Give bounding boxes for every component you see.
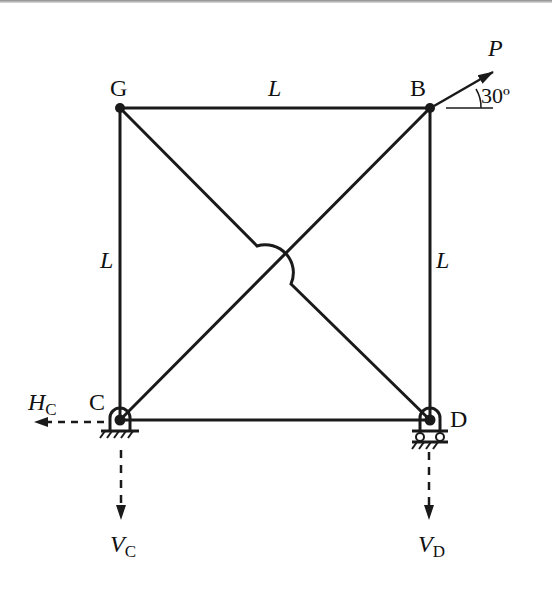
node-label-C: C xyxy=(89,389,105,415)
joint-G xyxy=(115,103,125,113)
load-label-P: P xyxy=(487,35,503,61)
length-label-right: L xyxy=(435,247,449,273)
length-label-left: L xyxy=(99,247,113,273)
node-label-G: G xyxy=(110,75,127,101)
node-label-D: D xyxy=(450,406,467,432)
node-label-B: B xyxy=(410,75,426,101)
reaction-Vd-arrow xyxy=(424,452,434,520)
angle-label: 30º xyxy=(481,83,510,108)
truss-diagram: G B C D L L L P 30º HC VC VD xyxy=(0,0,552,590)
reaction-label-Vc: VC xyxy=(110,531,136,561)
joint-B xyxy=(425,103,435,113)
reaction-label-Hc: HC xyxy=(27,389,57,419)
reaction-Vc-arrow xyxy=(116,450,126,520)
reaction-label-Vd: VD xyxy=(418,531,445,561)
length-label-top: L xyxy=(267,75,281,101)
